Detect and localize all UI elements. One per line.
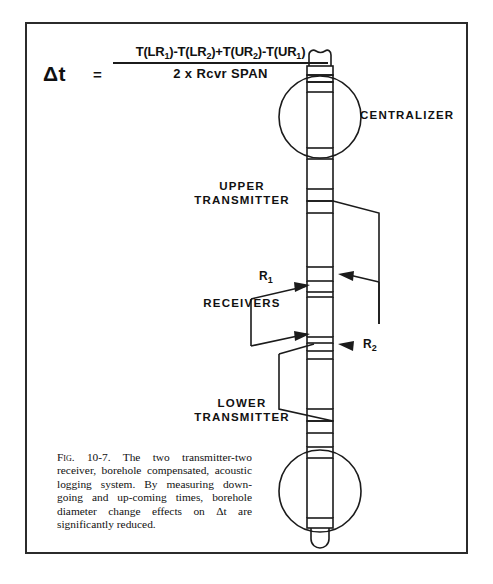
upper-centralizer-icon	[279, 76, 361, 158]
label-receiver-r1: R1	[259, 269, 273, 283]
label-upper-transmitter: UPPER TRANSMITTER	[177, 179, 307, 207]
figure-frame: Δt = T(LR1)-T(LR2)+T(UR2)-T(UR1) 2 x Rcv…	[25, 22, 468, 554]
lower-transmitter-arrow-line	[279, 344, 314, 354]
label-receiver-r2: R2	[363, 337, 377, 351]
lower-centralizer-top-collar	[307, 447, 333, 458]
arrowhead-r2-right	[338, 341, 354, 351]
figure-caption: Fig. 10-7. The two transmitter-two recei…	[57, 451, 252, 531]
upper-centralizer-top-collar	[307, 82, 333, 92]
lower-transmitter-collar-2	[307, 421, 333, 433]
upper-transmitter-leader	[333, 201, 379, 324]
upper-transmitter-collar-1	[307, 189, 333, 201]
caption-figure-number: Fig. 10-7.	[57, 451, 111, 463]
lower-transmitter-collar-1	[307, 409, 333, 421]
lower-centralizer-bottom-collar	[307, 518, 333, 528]
receiver-r2-upper-band	[307, 337, 333, 343]
label-centralizer: CENTRALIZER	[360, 108, 480, 122]
label-lower-transmitter: LOWER TRANSMITTER	[177, 396, 307, 424]
upper-transmitter-collar-2	[307, 201, 333, 213]
lower-centralizer-icon	[279, 450, 361, 532]
arrowhead-r1-right	[338, 271, 354, 281]
arrowheads	[294, 271, 354, 351]
label-receivers: RECEIVERS	[177, 296, 307, 310]
receiver-r1-collar	[307, 267, 333, 281]
receiver-r2-collar	[307, 351, 333, 359]
receiver-r1-lower-band	[307, 292, 333, 297]
